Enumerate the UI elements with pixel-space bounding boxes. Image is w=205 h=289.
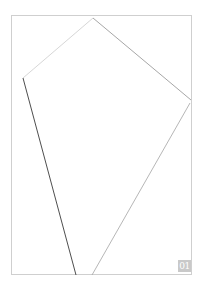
kite-shape-drawing bbox=[0, 0, 205, 289]
edge-left-bottom bbox=[23, 78, 76, 275]
page-number-badge: 01 bbox=[178, 260, 191, 272]
edge-left-top bbox=[23, 18, 93, 78]
edge-top-right bbox=[93, 18, 191, 100]
edge-right-bottom bbox=[92, 103, 190, 275]
